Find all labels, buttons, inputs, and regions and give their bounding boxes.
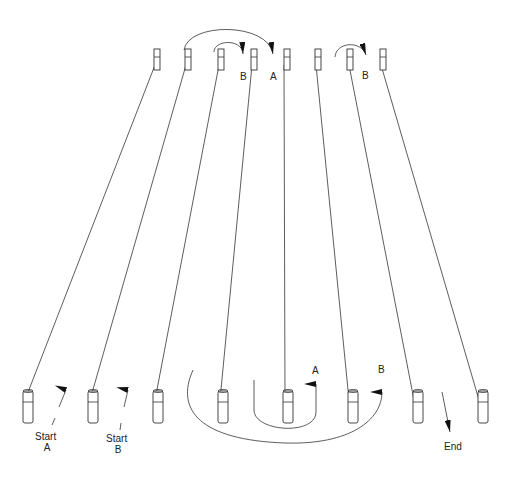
top-cone bbox=[284, 49, 290, 70]
top-cone bbox=[218, 49, 224, 70]
top-label-b-right: B bbox=[362, 70, 369, 81]
bottom-cone bbox=[153, 390, 163, 424]
top-cone bbox=[251, 49, 257, 70]
end-arrow bbox=[442, 392, 450, 432]
bottom-label-a: A bbox=[312, 365, 319, 376]
top-cone-row bbox=[154, 49, 386, 70]
bottom-label-b: B bbox=[378, 364, 385, 375]
end-label: End bbox=[444, 441, 462, 452]
top-label-b: B bbox=[240, 71, 247, 82]
bottom-cone bbox=[348, 390, 358, 424]
start-b-label: Start B bbox=[106, 433, 130, 455]
top-cone bbox=[185, 49, 191, 70]
bottom-cone bbox=[478, 390, 488, 424]
top-cone bbox=[380, 49, 386, 70]
bottom-cone bbox=[218, 390, 228, 424]
bottom-cone bbox=[283, 390, 293, 424]
top-route-arcs bbox=[184, 29, 366, 57]
start-a-arrow bbox=[52, 390, 66, 425]
top-cone bbox=[347, 49, 353, 70]
bottom-cone bbox=[88, 390, 98, 424]
start-b-arrow bbox=[120, 390, 128, 430]
start-a-label: Start A bbox=[35, 431, 59, 453]
connector-lines bbox=[25, 65, 479, 400]
bottom-cone bbox=[413, 390, 423, 424]
drill-diagram: B A B A B Start A Start B End bbox=[0, 0, 510, 479]
top-cone bbox=[315, 49, 321, 70]
bottom-cone bbox=[23, 390, 33, 424]
bottom-cone-row bbox=[23, 390, 488, 424]
top-label-a: A bbox=[270, 71, 277, 82]
top-cone bbox=[154, 49, 160, 70]
route-a-top-arc bbox=[184, 29, 273, 54]
